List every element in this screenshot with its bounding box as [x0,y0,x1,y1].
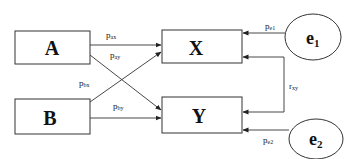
node-e2-subscript: 2 [317,138,323,150]
node-e1: e1 [285,14,341,60]
edge-x-y-correlation [243,57,284,112]
node-b-label: B [43,107,56,129]
node-e2-label: e [309,129,317,149]
path-diagram: A B X Y e1 e2 pax pay pbx pby pe1 p [0,0,358,159]
edge-label-pay: pay [110,50,120,60]
node-a-label: A [45,37,60,59]
node-e2: e2 [289,119,343,159]
edge-label-rxy: rxy [289,81,298,91]
edge-b-x [90,52,161,102]
node-x-label: X [189,37,204,59]
node-e1-label: e [306,28,314,48]
node-a: A [15,31,90,64]
node-y: Y [162,97,242,133]
node-b: B [15,99,90,134]
edge-a-y [90,55,161,110]
node-x: X [162,30,242,63]
edge-label-pe1: pe1 [265,21,275,31]
edge-label-pbx: pbx [79,78,90,88]
node-y-label: Y [192,105,207,127]
edge-label-pax: pax [106,30,116,40]
edge-label-pe2: pe2 [263,135,273,145]
edge-label-pby: pby [113,101,124,111]
node-e1-subscript: 1 [314,37,320,49]
